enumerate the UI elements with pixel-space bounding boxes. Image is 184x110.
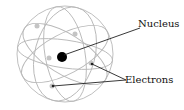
electron (35, 24, 40, 29)
electron-marker (91, 63, 94, 66)
electron (73, 32, 78, 37)
nucleus (57, 52, 67, 62)
electron (47, 56, 52, 61)
electron-leader-b (53, 80, 126, 86)
electrons-label: Electrons (125, 74, 173, 85)
nucleus-label: Nucleus (138, 18, 179, 29)
atom-diagram: Nucleus Electrons (0, 0, 184, 110)
electron-marker (52, 85, 55, 88)
electron-leader-a (92, 64, 126, 80)
